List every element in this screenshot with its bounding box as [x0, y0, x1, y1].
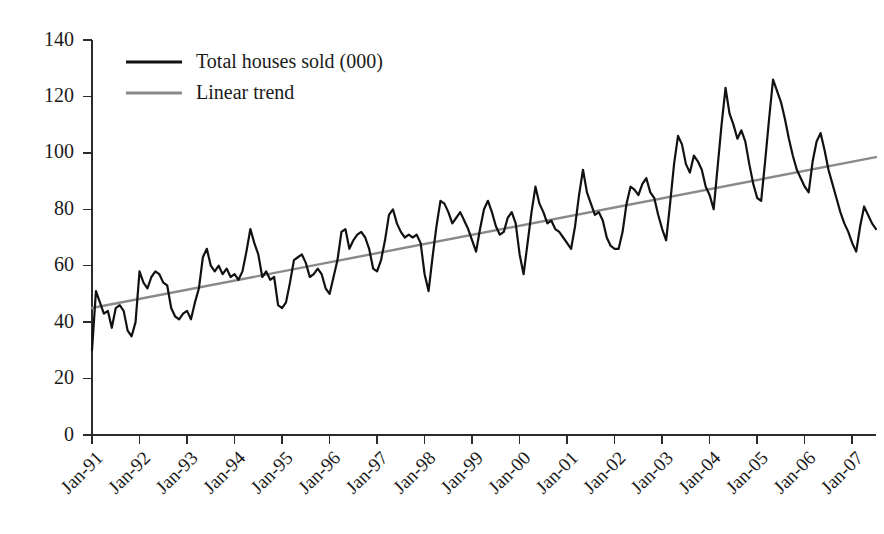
x-tick-label: Jan-07 [816, 447, 867, 498]
chart-container: 020406080100120140 Jan-91Jan-92Jan-93Jan… [0, 0, 884, 534]
y-tick-label: 100 [44, 140, 74, 162]
x-tick-label: Jan-95 [246, 447, 297, 498]
x-tick-label: Jan-98 [389, 447, 440, 498]
y-tick-label: 140 [44, 28, 74, 50]
chart-legend: Total houses sold (000)Linear trend [126, 50, 383, 103]
x-tick-label: Jan-96 [294, 447, 345, 498]
x-tick-label: Jan-93 [151, 447, 202, 498]
y-tick-label: 80 [54, 197, 74, 219]
y-tick-label: 40 [54, 310, 74, 332]
x-tick-label: Jan-91 [56, 447, 107, 498]
legend-label-1: Linear trend [196, 81, 294, 103]
total-houses-sold-line [92, 80, 876, 351]
x-tick-label: Jan-94 [199, 447, 250, 498]
x-tick-label: Jan-04 [674, 447, 725, 498]
line-chart: 020406080100120140 Jan-91Jan-92Jan-93Jan… [0, 0, 884, 534]
x-tick-label: Jan-92 [104, 447, 155, 498]
x-tick-label: Jan-01 [531, 447, 582, 498]
linear-trend-line [92, 157, 876, 308]
x-tick-label: Jan-05 [721, 447, 772, 498]
y-tick-label: 120 [44, 84, 74, 106]
x-axis-ticks: Jan-91Jan-92Jan-93Jan-94Jan-95Jan-96Jan-… [56, 435, 867, 498]
y-tick-label: 60 [54, 253, 74, 275]
x-tick-label: Jan-03 [626, 447, 677, 498]
y-tick-label: 0 [64, 423, 74, 445]
legend-label-0: Total houses sold (000) [196, 50, 383, 73]
x-tick-label: Jan-06 [769, 447, 820, 498]
x-tick-label: Jan-99 [436, 447, 487, 498]
y-axis-ticks: 020406080100120140 [44, 28, 92, 445]
x-tick-label: Jan-02 [579, 447, 630, 498]
x-tick-label: Jan-97 [341, 447, 392, 498]
x-tick-label: Jan-00 [484, 447, 535, 498]
y-tick-label: 20 [54, 366, 74, 388]
